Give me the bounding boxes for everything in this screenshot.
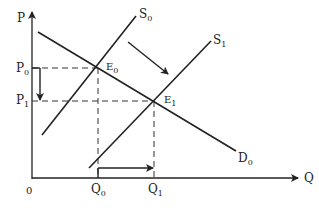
x-axis-label: Q: [304, 171, 314, 185]
y-axis-label: P: [17, 11, 25, 25]
q1-label: Q1: [148, 182, 163, 198]
price-drop-arrow: [32, 68, 40, 100]
s1-label: S1: [213, 33, 226, 49]
supply-demand-diagram: P Q 0 P0 P1 Q0 Q1 D0 S0 S1 E0 E1: [0, 0, 319, 208]
origin-label: 0: [26, 185, 32, 196]
q0-label: Q0: [91, 182, 106, 198]
s0-label: S0: [139, 7, 152, 23]
quantity-increase-arrow: [98, 168, 153, 178]
supply-curve-s0: [42, 16, 136, 135]
p1-label: P1: [16, 93, 29, 109]
e0-label: E0: [106, 61, 118, 75]
d0-label: D0: [238, 151, 253, 167]
p0-label: P0: [16, 61, 29, 77]
e1-label: E1: [164, 94, 176, 108]
dashed-guides: [32, 68, 154, 178]
supply-shift-arrow: [128, 42, 168, 74]
